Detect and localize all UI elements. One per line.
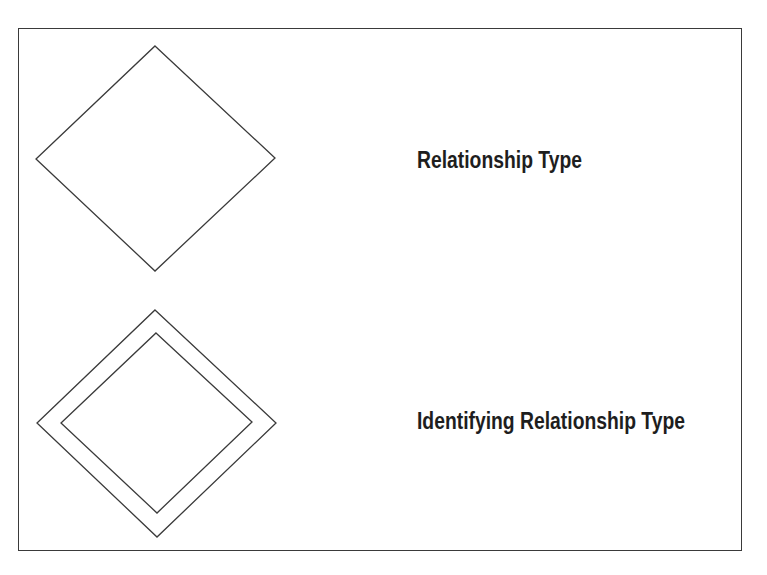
inner-diamond (61, 333, 252, 513)
diagram-shapes (0, 0, 767, 575)
identifying-relationship-type-label: Identifying Relationship Type (417, 410, 685, 433)
identifying-relationship-type-double-diamond (37, 310, 276, 537)
outer-diamond (37, 310, 276, 537)
relationship-type-label: Relationship Type (417, 149, 582, 172)
relationship-type-diamond (36, 46, 275, 271)
